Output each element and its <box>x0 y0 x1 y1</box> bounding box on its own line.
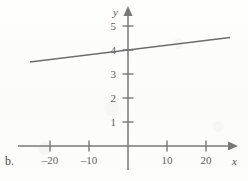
x-tick-label: –10 <box>73 155 105 166</box>
x-axis-label: x <box>232 156 237 167</box>
figure-panel: –20 –10 10 20 1 2 3 4 5 y x b. <box>0 0 248 181</box>
y-tick-label: 5 <box>100 21 116 32</box>
x-tick-label: 20 <box>192 155 220 166</box>
x-axis-arrow-icon <box>228 142 238 151</box>
y-tick-label: 2 <box>100 93 116 104</box>
y-tick-label: 3 <box>100 69 116 80</box>
data-series-line <box>30 38 230 62</box>
y-tick-label: 1 <box>100 117 116 128</box>
y-axis-label: y <box>113 7 118 18</box>
y-axis-arrow-icon <box>124 6 133 16</box>
y-tick-label: 4 <box>100 45 116 56</box>
part-label: b. <box>5 155 14 167</box>
x-tick-label: –20 <box>34 155 66 166</box>
x-tick-label: 10 <box>153 155 181 166</box>
